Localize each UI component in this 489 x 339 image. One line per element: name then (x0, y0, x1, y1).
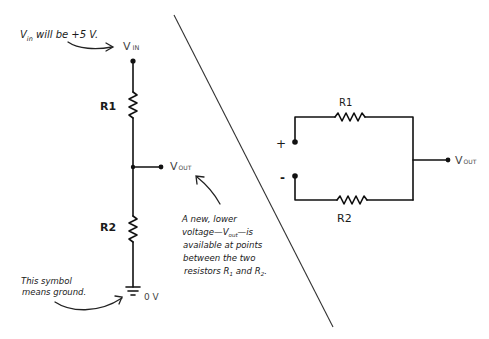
ground-icon (126, 287, 140, 295)
divider-line (174, 15, 333, 327)
plus-label: + (276, 137, 286, 151)
right-r2-resistor (337, 196, 367, 204)
left-circuit: Vin will be +5 V. VIN R1 VOUT R2 (20, 29, 267, 310)
ground-label: 0 V (144, 292, 160, 302)
vin-note: Vin will be +5 V. (20, 29, 98, 43)
right-r1-label: R1 (339, 97, 352, 108)
right-r2-label: R2 (337, 212, 352, 225)
r2-resistor (129, 216, 137, 242)
minus-label: - (280, 171, 285, 185)
vin-label: VIN (123, 40, 139, 53)
right-vout-label: VOUT (455, 154, 477, 167)
right-r1-resistor (335, 113, 365, 121)
r2-label: R2 (100, 221, 116, 234)
voltage-divider-diagram: Vin will be +5 V. VIN R1 VOUT R2 (0, 0, 489, 339)
vout-terminal (159, 165, 164, 170)
ground-note-arrow (55, 298, 122, 310)
vout-note: A new, lower voltage—Vout—is available a… (181, 214, 267, 277)
vout-label: VOUT (170, 160, 192, 173)
vout-note-arrow (197, 177, 220, 204)
ground-note: This symbol means ground. (21, 276, 86, 297)
minus-terminal (292, 173, 298, 179)
right-circuit: R1 R2 + - VOUT (276, 97, 477, 225)
r1-resistor (129, 92, 137, 118)
plus-terminal (292, 139, 298, 145)
right-vout-terminal (446, 158, 451, 163)
r1-label: R1 (100, 100, 116, 113)
